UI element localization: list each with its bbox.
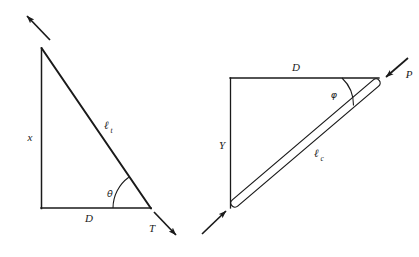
compression-triangle-group: D Y ℓ c φ P (202, 58, 413, 234)
label-compression-strut: ℓ c (314, 147, 325, 163)
figure-root: x D ℓ t θ T (0, 0, 419, 257)
tension-triangle-group: x D ℓ t θ T (27, 16, 176, 235)
tension-arrow-upper-left (27, 16, 50, 40)
label-tension-hypotenuse: ℓ t (104, 119, 114, 135)
label-compression-vertical-side: Y (219, 139, 227, 151)
label-compression-top-side: D (291, 61, 300, 73)
label-tension-angle: θ (107, 188, 113, 199)
label-compression-strut-main: ℓ (314, 147, 319, 159)
label-tension-hypotenuse-main: ℓ (104, 119, 109, 131)
label-tension-vertical-side: x (27, 131, 33, 143)
label-compression-angle: φ (331, 89, 338, 100)
tension-hypotenuse-member (42, 48, 152, 209)
label-tension-base-side: D (84, 212, 93, 224)
tension-angle-arc (113, 177, 129, 208)
compression-strut-fill (235, 83, 376, 203)
tension-arrow-lower-right (154, 212, 176, 235)
label-tension-hypotenuse-subscript: t (111, 126, 114, 135)
label-tension-force: T (149, 222, 156, 234)
label-compression-force: P (405, 68, 413, 80)
diagram-canvas: x D ℓ t θ T (0, 0, 419, 257)
compression-arrow-lower-left (202, 211, 226, 234)
label-compression-strut-subscript: c (321, 154, 325, 163)
